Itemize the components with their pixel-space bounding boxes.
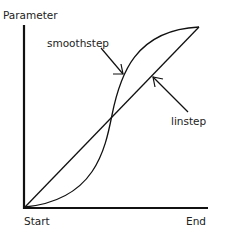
- y-axis-label: Parameter: [3, 10, 58, 21]
- x-start-label: Start: [24, 216, 50, 227]
- linstep-label: linstep: [171, 116, 206, 127]
- x-end-label: End: [186, 216, 206, 227]
- smoothstep-label: smoothstep: [47, 38, 109, 49]
- smoothstep-arrow: [101, 48, 123, 74]
- linstep-arrow: [153, 77, 188, 112]
